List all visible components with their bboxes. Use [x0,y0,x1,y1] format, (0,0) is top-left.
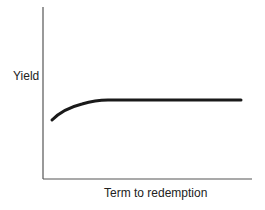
yield-curve-chart: Yield Term to redemption [0,0,265,210]
yield-curve-line [52,100,241,120]
chart-canvas [0,0,265,210]
x-axis-label: Term to redemption [104,186,207,200]
y-axis-label: Yield [13,69,39,83]
